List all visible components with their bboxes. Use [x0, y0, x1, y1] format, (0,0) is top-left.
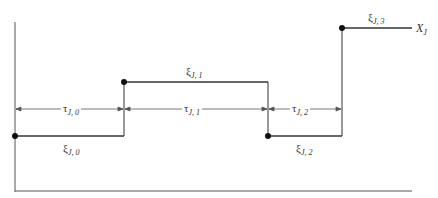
xi-label-1: ξJ, 1 — [186, 66, 202, 77]
tau-label-2: τJ, 2 — [290, 103, 310, 114]
jump-point-3 — [339, 25, 345, 31]
jump-point-2 — [265, 133, 271, 139]
jump-point-0 — [12, 133, 18, 139]
step-path — [15, 28, 412, 136]
tau-label-1: τJ, 1 — [182, 103, 202, 114]
process-label: XJ — [416, 22, 427, 34]
xi-label-2: ξJ, 2 — [296, 143, 312, 154]
jump-point-1 — [121, 79, 127, 85]
step-function-diagram — [0, 0, 438, 198]
tau-label-0: τJ, 0 — [61, 103, 81, 114]
xi-label-3: ξJ, 3 — [368, 12, 384, 23]
xi-label-0: ξJ, 0 — [63, 143, 79, 154]
